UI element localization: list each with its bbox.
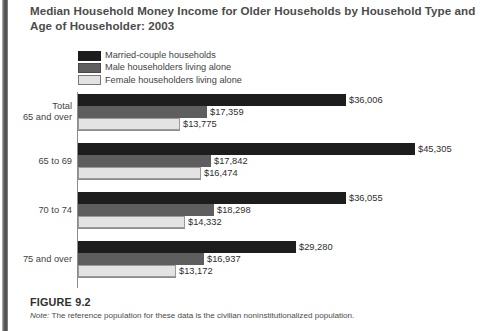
chart-bar-value-label: $36,006 [349,95,383,106]
chart-bar-value-label: $29,280 [299,242,333,253]
chart-bar-female[interactable] [78,265,176,277]
chart-plot-area: Total65 and over$36,006$17,359$13,77565 … [0,92,491,290]
figure-page: Median Household Money Income for Older … [0,0,491,331]
chart-bar-male[interactable] [78,106,207,118]
page-title: Median Household Money Income for Older … [30,4,480,33]
chart-bar-married[interactable] [78,192,346,204]
chart-group-baseline [77,228,185,229]
chart-group-baseline [77,130,180,131]
chart-category-group: 70 to 74$36,055$18,298$14,332 [0,190,491,239]
chart-bar-male[interactable] [78,253,204,265]
chart-bar-female[interactable] [78,118,180,130]
chart-category-group: 65 to 69$45,305$17,842$16,474 [0,141,491,190]
legend-item-male: Male householders living alone [78,62,242,74]
chart-bar-row: $36,006 [78,94,383,106]
chart-bar-row: $16,474 [78,167,238,179]
chart-bar-row: $29,280 [78,241,333,253]
chart-category-label-line: 65 to 69 [0,156,72,167]
figure-caption: FIGURE 9.2 Note: The reference populatio… [30,296,485,321]
chart-legend: Married-couple households Male household… [78,50,242,87]
chart-bar-value-label: $16,474 [204,168,238,179]
legend-label-married: Married-couple households [105,50,216,61]
chart-bar-row: $14,332 [78,216,222,228]
chart-bar-row: $13,172 [78,265,213,277]
chart-category-group: 75 and over$29,280$16,937$13,172 [0,239,491,288]
chart-bar-female[interactable] [78,167,201,179]
figure-note-text: The reference population for these data … [49,311,354,320]
chart-category-label-line: 65 and over [0,112,72,123]
chart-bar-row: $17,842 [78,155,248,167]
chart-bar-male[interactable] [78,155,211,167]
figure-note: Note: The reference population for these… [30,311,485,321]
chart-bar-married[interactable] [78,241,296,253]
chart-bar-value-label: $45,305 [418,144,452,155]
chart-bar-row: $36,055 [78,192,383,204]
legend-swatch-married-icon [78,51,101,61]
chart-bar-value-label: $16,937 [207,254,241,265]
chart-category-label: 65 to 69 [0,156,72,167]
legend-label-female: Female householders living alone [105,75,242,86]
chart-bar-row: $18,298 [78,204,251,216]
chart-bar-value-label: $13,172 [179,266,213,277]
figure-number: FIGURE 9.2 [30,296,485,308]
chart-category-label: 75 and over [0,254,72,265]
chart-category-label-line: 75 and over [0,254,72,265]
chart-bar-row: $17,359 [78,106,244,118]
legend-item-female: Female householders living alone [78,74,242,86]
legend-label-male: Male householders living alone [105,62,231,73]
chart-bar-value-label: $14,332 [188,217,222,228]
chart-bar-value-label: $18,298 [217,205,251,216]
figure-note-lead: Note: [30,311,49,320]
chart-category-label-line: 70 to 74 [0,205,72,216]
chart-category-label: 70 to 74 [0,205,72,216]
chart-bar-value-label: $17,359 [210,107,244,118]
chart-bar-married[interactable] [78,94,346,106]
chart-category-label: Total65 and over [0,101,72,122]
chart-category-group: Total65 and over$36,006$17,359$13,775 [0,92,491,141]
chart-group-baseline [77,179,201,180]
chart-bar-value-label: $13,775 [183,119,217,130]
legend-swatch-female-icon [78,75,101,85]
chart-bar-value-label: $36,055 [349,193,383,204]
chart-bar-row: $16,937 [78,253,241,265]
chart-bar-row: $45,305 [78,143,452,155]
chart-bar-married[interactable] [78,143,415,155]
chart-bar-row: $13,775 [78,118,217,130]
chart-category-label-line: Total [0,101,72,112]
chart-bar-female[interactable] [78,216,185,228]
chart-group-baseline [77,277,176,278]
legend-item-married: Married-couple households [78,50,242,62]
chart-bar-value-label: $17,842 [214,156,248,167]
legend-swatch-male-icon [78,63,101,73]
chart-bar-male[interactable] [78,204,214,216]
